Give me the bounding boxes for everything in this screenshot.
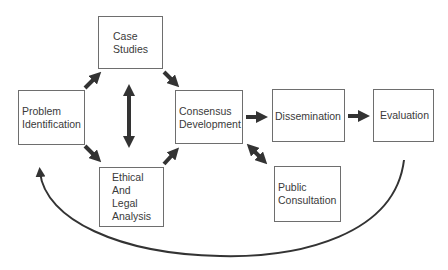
node-public-consultation: Public Consultation: [274, 166, 341, 222]
node-ethical-line4: Analysis: [112, 210, 151, 223]
node-evaluation-label: Evaluation: [380, 109, 429, 122]
arrow-ethical-to-consensus: [164, 152, 175, 164]
node-dissemination-label: Dissemination: [275, 110, 341, 123]
node-case-studies-line2: Studies: [113, 43, 148, 56]
arrow-problem-to-ethical: [85, 146, 97, 158]
node-ethical-line3: Legal: [112, 197, 138, 210]
arrow-problem-to-case: [85, 76, 97, 88]
node-consensus-line1: Consensus: [179, 105, 232, 118]
node-case-studies-line1: Case: [113, 30, 138, 43]
node-public-line1: Public: [278, 181, 307, 194]
node-ethical-legal-analysis: Ethical And Legal Analysis: [99, 167, 164, 227]
arrow-consensus-public-bidirectional: [251, 148, 263, 160]
node-problem-line1: Problem: [22, 105, 61, 118]
node-dissemination: Dissemination: [272, 89, 345, 142]
node-consensus-development: Consensus Development: [175, 90, 243, 144]
node-ethical-line2: And: [112, 184, 131, 197]
node-ethical-line1: Ethical: [112, 171, 144, 184]
node-evaluation: Evaluation: [373, 89, 434, 142]
node-public-line2: Consultation: [278, 194, 336, 207]
node-consensus-line2: Development: [179, 118, 241, 131]
curve-evaluation-to-problem: [40, 160, 404, 256]
node-case-studies: Case Studies: [98, 16, 163, 69]
node-problem-identification: Problem Identification: [18, 90, 85, 145]
arrow-case-to-consensus: [164, 72, 175, 83]
node-problem-line2: Identification: [22, 118, 81, 131]
